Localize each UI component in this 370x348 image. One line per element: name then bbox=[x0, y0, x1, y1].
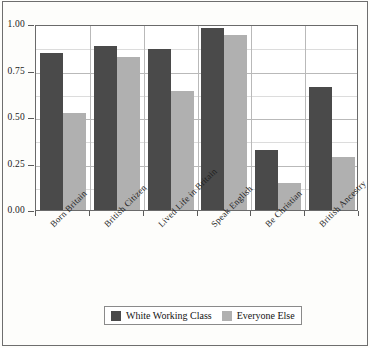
legend-item: White Working Class bbox=[111, 311, 212, 321]
y-axis-tick-mark bbox=[28, 211, 34, 212]
x-axis-labels: Born BritainBritish CitizenLived Life in… bbox=[0, 216, 370, 296]
dark-gray-swatch-icon bbox=[111, 311, 121, 321]
y-axis-tick-label: 0.00 bbox=[8, 206, 25, 216]
y-axis-tick-label: 0.50 bbox=[8, 113, 25, 123]
legend-item: Everyone Else bbox=[222, 311, 295, 321]
bar bbox=[40, 53, 63, 210]
y-axis-tick-label: 0.75 bbox=[8, 67, 25, 77]
y-axis: 0.000.250.500.751.00 bbox=[0, 0, 35, 230]
y-axis-tick-label: 0.25 bbox=[8, 160, 25, 170]
y-axis-tick-mark bbox=[28, 25, 34, 26]
y-axis-tick-label: 1.00 bbox=[8, 20, 25, 30]
legend-label: Everyone Else bbox=[237, 311, 295, 321]
y-axis-tick-mark bbox=[28, 165, 34, 166]
chart-page: 0.000.250.500.751.00 Born BritainBritish… bbox=[0, 0, 370, 348]
y-axis-tick-mark bbox=[28, 72, 34, 73]
light-gray-swatch-icon bbox=[222, 311, 232, 321]
bar bbox=[309, 87, 332, 210]
bar bbox=[148, 49, 171, 210]
chart-legend: White Working Class Everyone Else bbox=[104, 306, 302, 325]
bar bbox=[255, 150, 278, 210]
bar bbox=[224, 35, 247, 210]
legend-label: White Working Class bbox=[126, 311, 212, 321]
y-axis-tick-mark bbox=[28, 118, 34, 119]
bar bbox=[94, 46, 117, 210]
